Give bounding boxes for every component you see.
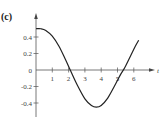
y-tick-label: 0.4 xyxy=(23,34,32,42)
y-tick-label: -0.4 xyxy=(21,100,33,108)
y-tick-label: -0.2 xyxy=(21,83,33,91)
x-tick-label: 3 xyxy=(83,75,87,83)
chart: (c) t1234560.40.20-0.2-0.4 xyxy=(0,0,163,127)
y-axis-arrow-icon xyxy=(34,13,38,19)
x-axis-label: t xyxy=(157,67,160,75)
data-line xyxy=(36,29,139,107)
y-tick-label: 0.2 xyxy=(23,50,32,58)
x-tick-label: 2 xyxy=(67,75,71,83)
x-tick-label: 6 xyxy=(132,75,136,83)
x-axis-arrow-icon xyxy=(149,68,155,72)
x-tick-label: 4 xyxy=(99,75,103,83)
y-tick-label: 0 xyxy=(29,67,33,75)
panel-label: (c) xyxy=(1,11,12,23)
x-tick-label: 1 xyxy=(51,75,55,83)
